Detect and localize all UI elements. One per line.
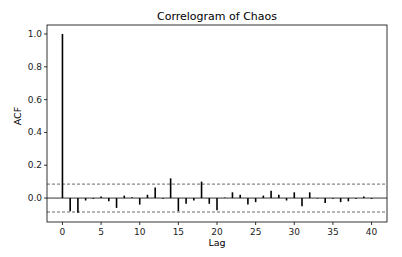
y-tick-label: 0.8 [28,62,43,72]
x-tick-label: 30 [289,227,301,237]
x-axis: 0510152025303540 [60,222,378,237]
x-axis-label: Lag [208,237,225,248]
correlogram-chart: Correlogram of Chaos 0.00.20.40.60.81.0 … [0,0,402,257]
chart-title: Correlogram of Chaos [157,10,277,23]
x-tick-label: 40 [366,227,378,237]
plot-area [47,34,387,213]
x-tick-label: 20 [211,227,223,237]
x-tick-label: 5 [98,227,104,237]
y-tick-label: 0.0 [28,193,43,203]
y-tick-label: 1.0 [28,29,43,39]
x-tick-label: 10 [134,227,146,237]
x-tick-label: 35 [327,227,338,237]
y-tick-label: 0.6 [28,95,43,105]
x-tick-label: 15 [173,227,184,237]
y-tick-label: 0.2 [28,160,42,170]
x-tick-label: 0 [60,227,66,237]
y-axis: 0.00.20.40.60.81.0 [28,29,47,203]
x-tick-label: 25 [250,227,261,237]
y-axis-label: ACF [12,107,23,125]
plot-frame [47,25,387,222]
y-tick-label: 0.4 [28,127,43,137]
